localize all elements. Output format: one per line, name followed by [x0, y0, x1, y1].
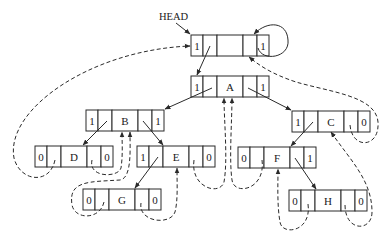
B-rtag-label: 1 — [155, 115, 161, 127]
lchild-cell — [149, 146, 163, 167]
D-ltag-label: 0 — [38, 151, 44, 163]
rchild-cell — [290, 147, 304, 168]
C-ltag-label: 1 — [295, 116, 301, 128]
lchild-cell — [203, 35, 217, 56]
A-data-label: A — [226, 81, 234, 93]
lchild-cell — [95, 189, 109, 210]
thread-F-left-to-A — [231, 98, 263, 189]
F-ltag-label: 0 — [241, 152, 247, 164]
head-ltag-label: 1 — [194, 40, 200, 52]
node-D: 0D0 — [35, 146, 113, 167]
B-ltag-label: 1 — [89, 115, 95, 127]
node-G: 0G0 — [83, 189, 161, 210]
H-data-label: H — [324, 195, 332, 207]
rchild-cell — [189, 146, 203, 167]
lchild-cell — [203, 76, 217, 97]
node-E: 1E0 — [137, 146, 215, 167]
node-B: 1B1 — [86, 110, 164, 131]
node-A: 1A1 — [191, 76, 269, 97]
data-cell — [217, 35, 243, 56]
B-data-label: B — [121, 115, 128, 127]
H-ltag-label: 0 — [292, 195, 298, 207]
F-data-label: F — [274, 152, 280, 164]
rchild-cell — [243, 35, 257, 56]
rchild-cell — [87, 146, 101, 167]
C-rtag-label: 0 — [361, 116, 367, 128]
G-rtag-label: 0 — [152, 194, 158, 206]
rchild-cell — [243, 76, 257, 97]
node-H: 0H0 — [289, 190, 367, 211]
C-data-label: C — [327, 116, 334, 128]
E-data-label: E — [173, 151, 180, 163]
head-label: HEAD — [159, 11, 189, 22]
node-F: 0F1 — [238, 147, 316, 168]
E-rtag-label: 0 — [206, 151, 212, 163]
node-C: 1C0 — [292, 111, 370, 132]
thread-H-right-to-C — [331, 132, 372, 226]
threaded-binary-tree-diagram: HEAD 111A11B11C00D01E00F10G00H0 — [0, 0, 389, 244]
head-rtag-label: 1 — [260, 40, 266, 52]
lchild-cell — [250, 147, 264, 168]
F-rtag-label: 1 — [307, 152, 313, 164]
rchild-cell — [138, 110, 152, 131]
rchild-cell — [135, 189, 149, 210]
H-rtag-label: 0 — [358, 195, 364, 207]
E-ltag-label: 1 — [140, 151, 146, 163]
G-data-label: G — [118, 194, 126, 206]
A-ltag-label: 1 — [194, 81, 200, 93]
node-head: 11 — [191, 35, 269, 56]
D-data-label: D — [70, 151, 78, 163]
rchild-cell — [341, 190, 355, 211]
D-rtag-label: 0 — [104, 151, 110, 163]
head-pointer-arrow — [176, 23, 190, 34]
G-ltag-label: 0 — [86, 194, 92, 206]
edge-A-to-B — [165, 88, 212, 109]
thread-E-right-to-A — [194, 98, 226, 189]
A-rtag-label: 1 — [260, 81, 266, 93]
